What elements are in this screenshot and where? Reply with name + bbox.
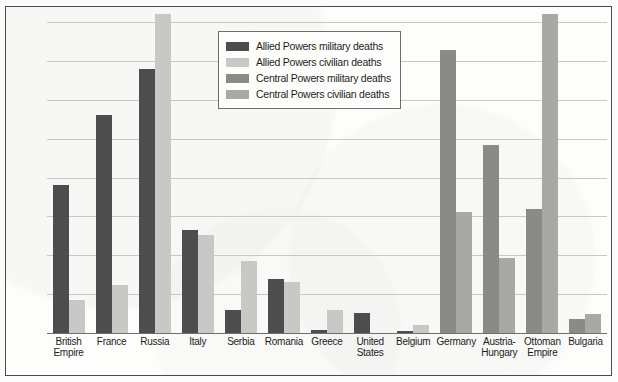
x-axis-label: Greece	[305, 336, 348, 358]
x-axis-label-line: Ottoman	[521, 336, 564, 347]
x-axis-label: Germany	[435, 336, 478, 358]
bar	[53, 185, 69, 333]
x-axis-label-line: Romania	[262, 336, 305, 347]
legend-swatch	[226, 58, 249, 67]
x-axis-label-line: United	[349, 336, 392, 347]
x-axis-label-line: Greece	[305, 336, 348, 347]
x-axis-label: Russia	[133, 336, 176, 358]
legend-item: Central Powers military deaths	[226, 70, 391, 86]
x-axis-label: Bulgaria	[564, 336, 607, 358]
legend-label: Central Powers civilian deaths	[256, 88, 389, 100]
bar	[483, 145, 499, 333]
bar	[225, 310, 241, 333]
x-axis-label-line: France	[90, 336, 133, 347]
legend-label: Allied Powers military deaths	[256, 40, 383, 52]
x-axis-label-line: Austria-	[478, 336, 521, 347]
legend-swatch	[226, 90, 249, 99]
x-axis-label-line: Italy	[176, 336, 219, 347]
bar	[440, 50, 456, 333]
bar	[96, 115, 112, 333]
legend-label: Allied Powers civilian deaths	[256, 56, 381, 68]
legend-label: Central Powers military deaths	[256, 72, 391, 84]
bar	[311, 330, 327, 333]
bar	[268, 279, 284, 333]
x-axis-label-line: Serbia	[219, 336, 262, 347]
bar-group	[176, 22, 219, 333]
bar	[569, 319, 585, 333]
x-axis-label-line: Hungary	[478, 347, 521, 358]
legend-swatch	[226, 74, 249, 83]
bar	[526, 209, 542, 333]
bar	[155, 14, 171, 333]
bar	[585, 314, 601, 333]
bar	[241, 261, 257, 333]
bar	[112, 285, 128, 333]
x-axis-label: OttomanEmpire	[521, 336, 564, 358]
x-axis-label: Romania	[262, 336, 305, 358]
x-axis-label: UnitedStates	[349, 336, 392, 358]
bar	[354, 313, 370, 333]
bar	[284, 282, 300, 333]
bar	[198, 235, 214, 333]
x-axis-label: Belgium	[392, 336, 435, 358]
x-axis-label-line: Germany	[435, 336, 478, 347]
bar-group	[133, 22, 176, 333]
bar-group	[47, 22, 90, 333]
bar	[182, 230, 198, 333]
x-axis-label: Serbia	[219, 336, 262, 358]
x-axis-label-line: Belgium	[392, 336, 435, 347]
bar-group	[435, 22, 478, 333]
bar	[499, 258, 515, 333]
x-axis-label: BritishEmpire	[47, 336, 90, 358]
chart-page: 00.250.500.751.001.251.501.752.00 Britis…	[0, 0, 618, 382]
bar	[413, 325, 429, 333]
bar-group	[564, 22, 607, 333]
legend-item: Allied Powers civilian deaths	[226, 54, 391, 70]
legend-item: Central Powers civilian deaths	[226, 86, 391, 102]
bar	[456, 212, 472, 333]
x-axis-labels: BritishEmpireFranceRussiaItalySerbiaRoma…	[47, 336, 607, 358]
x-axis-label-line: Empire	[47, 347, 90, 358]
bar	[542, 14, 558, 333]
x-axis-label-line: British	[47, 336, 90, 347]
bar	[327, 310, 343, 333]
x-axis-label-line: Bulgaria	[564, 336, 607, 347]
legend-swatch	[226, 42, 249, 51]
legend-item: Allied Powers military deaths	[226, 38, 391, 54]
x-axis-label: Austria-Hungary	[478, 336, 521, 358]
x-axis-label: France	[90, 336, 133, 358]
x-axis-label-line: Empire	[521, 347, 564, 358]
bar-group	[90, 22, 133, 333]
x-axis-label-line: Russia	[133, 336, 176, 347]
bar-group	[478, 22, 521, 333]
x-axis-label: Italy	[176, 336, 219, 358]
bar	[69, 300, 85, 333]
gridline-0	[47, 333, 607, 334]
bar	[397, 331, 413, 333]
x-axis-label-line: States	[349, 347, 392, 358]
bar	[139, 69, 155, 333]
chart-legend: Allied Powers military deathsAllied Powe…	[218, 31, 401, 109]
bar-group	[521, 22, 564, 333]
